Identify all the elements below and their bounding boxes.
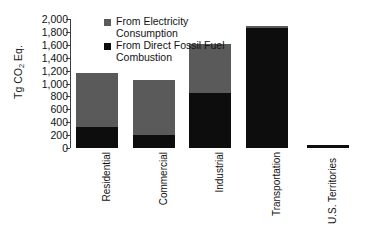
y-axis-tick-mark [66,19,70,20]
bar-group[interactable] [307,145,349,148]
legend-item-label: From Electricity Consumption [116,15,188,39]
legend-swatch-icon [104,43,111,50]
chart-container: Tg CO2 Eq. 2,0001,8001,6001,4001,2001,00… [0,0,387,228]
bar-segment-direct-fossil-fuel-combustion[interactable] [76,127,118,148]
x-axis-category-label: Commercial [158,152,170,205]
bar-segment-electricity-consumption[interactable] [133,80,175,135]
y-axis-title-prefix: Tg CO [12,68,24,99]
legend-swatch-icon [104,19,111,26]
y-axis-tick-label: 600 [24,104,68,114]
y-axis-tick-mark [66,71,70,72]
y-axis-tick-label: 400 [24,117,68,127]
y-axis-tick-label: 2,000 [24,14,68,24]
y-axis-tick-mark [66,135,70,136]
bar-segment-direct-fossil-fuel-combustion[interactable] [246,28,288,148]
y-axis-tick-label: 0 [24,143,68,153]
bar-group[interactable] [133,80,175,148]
x-axis-line [70,148,369,149]
y-axis-title-suffix: Eq. [12,45,24,64]
x-axis-category-label: Transportation [271,152,283,216]
y-axis-tick-mark [66,96,70,97]
y-axis-tick-label: 1,200 [24,66,68,76]
x-axis-category-label: Industrial [214,152,226,193]
bar-group[interactable] [76,73,118,148]
x-axis-category-label: Residential [101,152,113,201]
y-axis-tick-label: 200 [24,130,68,140]
y-axis-tick-mark [66,109,70,110]
x-axis-category-label: U.S. Territories [327,152,339,224]
y-axis-tick-label: 1,600 [24,40,68,50]
y-axis-tick-mark [66,58,70,59]
bar-group[interactable] [246,26,288,148]
bar-segment-electricity-consumption[interactable] [76,73,118,127]
bar-segment-direct-fossil-fuel-combustion[interactable] [307,145,349,148]
bar-segment-direct-fossil-fuel-combustion[interactable] [133,135,175,148]
y-axis-tick-mark [66,45,70,46]
bar-segment-direct-fossil-fuel-combustion[interactable] [189,93,231,148]
legend-item-label: From Direct Fossil Fuel Combustion [116,39,225,63]
y-axis-tick-label: 1,000 [24,79,68,89]
y-axis-tick-mark [66,122,70,123]
legend-item[interactable]: From Direct Fossil Fuel Combustion [104,40,234,63]
y-axis-tick-label: 1,800 [24,27,68,37]
legend-item[interactable]: From Electricity Consumption [104,16,234,39]
y-axis-tick-label: 800 [24,91,68,101]
y-axis-tick-mark [66,84,70,85]
y-axis-tick-label: 1,400 [24,53,68,63]
y-axis-tick-labels: 2,0001,8001,6001,4001,2001,0008006004002… [24,0,68,228]
y-axis-title: Tg CO2 Eq. [12,20,24,124]
y-axis-tick-mark [66,32,70,33]
chart-legend: From Electricity ConsumptionFrom Direct … [104,16,234,64]
